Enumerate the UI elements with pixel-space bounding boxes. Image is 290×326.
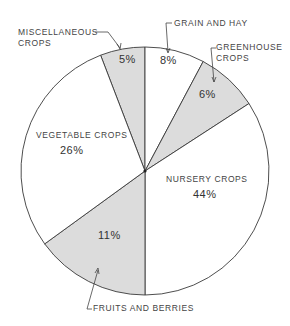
- clipped-caption: [22, 318, 272, 326]
- pct-miscellaneous-crops: 5%: [119, 53, 136, 65]
- pct-vegetable-crops: 26%: [60, 144, 84, 156]
- label-miscellaneous-crops: MISCELLANEOUS CROPS: [18, 27, 98, 49]
- label-greenhouse-crops: GREENHOUSE CROPS: [216, 42, 282, 64]
- pct-nursery-crops: 44%: [193, 188, 217, 200]
- pct-grain-and-hay: 8%: [160, 54, 177, 66]
- pct-greenhouse-crops: 6%: [199, 88, 216, 100]
- label-fruits-and-berries: FRUITS AND BERRIES: [93, 303, 194, 314]
- label-grain-and-hay: GRAIN AND HAY: [174, 18, 248, 29]
- pct-fruits-and-berries: 11%: [98, 229, 121, 241]
- label-nursery-crops: NURSERY CROPS: [166, 174, 248, 185]
- label-vegetable-crops: VEGETABLE CROPS: [36, 130, 128, 141]
